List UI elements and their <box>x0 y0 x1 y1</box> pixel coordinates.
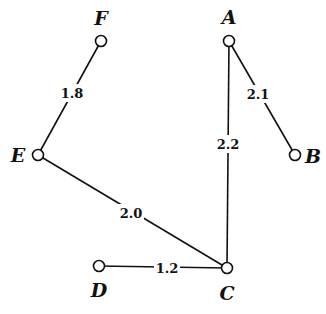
node-label-b: B <box>304 145 321 167</box>
edge-a-c <box>227 41 229 268</box>
edges-layer <box>38 41 295 268</box>
edge-weight-a-c: 2.2 <box>215 135 241 153</box>
edge-weight-label: 1.8 <box>61 86 84 101</box>
edge-weight-label: 2.2 <box>217 137 240 152</box>
graph-diagram: 1.82.12.22.01.2 FAEBDC <box>0 0 326 314</box>
edge-weight-e-c: 2.0 <box>118 204 144 222</box>
node-c <box>222 263 233 274</box>
edge-weight-label: 2.0 <box>120 206 143 221</box>
edge-weight-label: 2.1 <box>247 87 270 102</box>
node-label-a: A <box>220 6 237 28</box>
edge-weight-a-b: 2.1 <box>245 85 271 103</box>
node-label-e: E <box>10 144 26 166</box>
node-d <box>94 261 105 272</box>
node-label-d: D <box>90 279 108 301</box>
node-a <box>224 36 235 47</box>
node-f <box>96 36 107 47</box>
node-e <box>33 150 44 161</box>
edge-weight-d-c: 1.2 <box>154 259 180 277</box>
edge-weight-label: 1.2 <box>156 261 179 276</box>
edge-weights-layer: 1.82.12.22.01.2 <box>59 84 271 277</box>
node-label-f: F <box>93 7 109 29</box>
nodes-layer <box>33 36 301 274</box>
edge-weight-f-e: 1.8 <box>59 84 85 102</box>
node-label-c: C <box>219 282 234 304</box>
node-b <box>290 150 301 161</box>
